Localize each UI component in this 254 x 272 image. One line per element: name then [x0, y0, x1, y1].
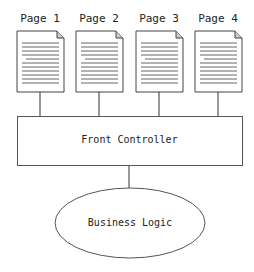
page-1-document-icon — [17, 31, 64, 92]
front-controller-label: Front Controller — [17, 134, 242, 145]
page-4-label: Page 4 — [188, 12, 248, 25]
page-3-document-icon — [136, 31, 183, 92]
page-2-document-icon — [76, 31, 123, 92]
business-logic-label: Business Logic — [55, 217, 205, 228]
page-3-label: Page 3 — [129, 12, 189, 25]
page-4-document-icon — [195, 31, 242, 92]
page-2-label: Page 2 — [69, 12, 129, 25]
page-1-label: Page 1 — [10, 12, 70, 25]
